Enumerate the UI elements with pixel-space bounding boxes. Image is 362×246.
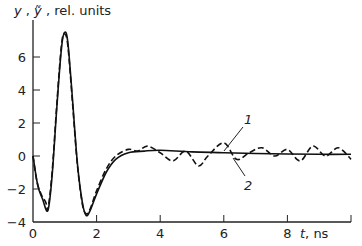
y-tilde-symbol: ỹ xyxy=(33,3,42,18)
comma-sep: , xyxy=(305,226,313,241)
y-tick-label: 4 xyxy=(18,83,26,98)
annotation-1-label: 1 xyxy=(244,112,252,127)
y-tick-label: −2 xyxy=(7,182,26,197)
annotation-2-leader xyxy=(233,158,245,176)
y-tick-label: 6 xyxy=(18,50,26,65)
y-axis-title: y , ỹ , rel. units xyxy=(13,3,111,18)
x-tick-label: 6 xyxy=(220,226,228,241)
comma-sep: , xyxy=(42,3,54,18)
x-units: ns xyxy=(313,226,328,241)
x-tick-label: 2 xyxy=(92,226,100,241)
annotation-2-label: 2 xyxy=(244,178,252,193)
y-tick-label: 0 xyxy=(18,149,26,164)
y-units: rel. units xyxy=(54,3,111,18)
y-tick-label: −4 xyxy=(7,215,26,230)
y-tick-label: 2 xyxy=(18,116,26,131)
x-axis-title: t, ns xyxy=(300,226,329,241)
x-tick-label: 0 xyxy=(29,226,37,241)
line-chart: −4−20246 02468 y , ỹ , rel. units t, ns … xyxy=(0,0,362,246)
x-tick-label: 4 xyxy=(156,226,164,241)
comma-sep: , xyxy=(22,3,34,18)
y-symbol: y xyxy=(13,3,22,18)
y-axis-ticks: −4−20246 xyxy=(7,50,40,230)
annotation-1-leader xyxy=(224,127,243,151)
x-tick-label: 8 xyxy=(283,226,291,241)
